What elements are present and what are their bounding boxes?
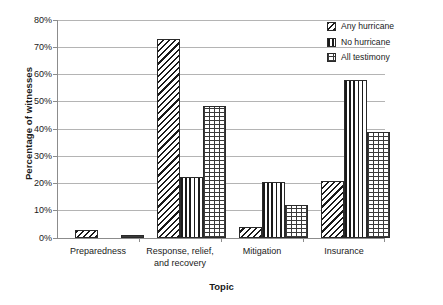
x-label-response-line1: Response, relief, xyxy=(146,246,214,256)
y-tick-label-10: 10% xyxy=(0,206,52,215)
legend-swatch-diagonal-hatch-icon xyxy=(327,22,336,31)
legend-swatch-brick-checker-icon xyxy=(327,53,336,62)
legend-item-all-testimony: All testimony xyxy=(327,50,394,66)
y-tick-mark-0 xyxy=(53,238,57,239)
bar-group-response xyxy=(147,20,221,238)
bar-group-mitigation xyxy=(229,20,303,238)
x-tick-mark-1 xyxy=(139,238,140,242)
y-tick-label-30: 30% xyxy=(0,152,52,161)
y-tick-label-0: 0% xyxy=(0,234,52,243)
x-axis-title: Topic xyxy=(0,281,443,292)
legend-label-all-testimony: All testimony xyxy=(341,50,390,66)
bar-response-any-hurricane xyxy=(157,39,180,238)
x-label-mitigation: Mitigation xyxy=(221,246,303,258)
x-label-preparedness: Preparedness xyxy=(57,246,139,258)
x-tick-mark-2 xyxy=(221,238,222,242)
x-label-response: Response, relief,and recovery xyxy=(139,246,221,269)
y-tick-label-50: 50% xyxy=(0,97,52,106)
bar-group-preparedness xyxy=(65,20,139,238)
y-tick-label-60: 60% xyxy=(0,70,52,79)
x-tick-mark-4 xyxy=(384,238,385,242)
y-tick-label-40: 40% xyxy=(0,125,52,134)
x-label-response-line2: and recovery xyxy=(154,258,206,268)
legend-swatch-vertical-lines-icon xyxy=(327,38,336,47)
x-tick-mark-3 xyxy=(303,238,304,242)
x-label-insurance: Insurance xyxy=(303,246,385,258)
bar-mitigation-all-testimony xyxy=(285,205,308,238)
bar-preparedness-all-testimony xyxy=(121,235,144,238)
legend-item-any-hurricane: Any hurricane xyxy=(327,19,394,35)
legend: Any hurricane No hurricane All testimony xyxy=(327,19,394,66)
y-tick-label-70: 70% xyxy=(0,43,52,52)
legend-item-no-hurricane: No hurricane xyxy=(327,35,394,51)
bar-insurance-no-hurricane xyxy=(344,80,367,238)
bar-mitigation-no-hurricane xyxy=(262,182,285,238)
legend-label-no-hurricane: No hurricane xyxy=(341,35,390,51)
y-tick-label-80: 80% xyxy=(0,16,52,25)
y-tick-label-20: 20% xyxy=(0,179,52,188)
bar-insurance-any-hurricane xyxy=(321,181,344,238)
bar-preparedness-any-hurricane xyxy=(75,230,98,238)
bar-response-no-hurricane xyxy=(180,177,203,238)
bar-insurance-all-testimony xyxy=(367,132,390,238)
bar-response-all-testimony xyxy=(203,106,226,238)
bar-mitigation-any-hurricane xyxy=(239,227,262,238)
bar-chart: Percentage of witnesses 80% 70% 60% 50% … xyxy=(0,0,443,305)
legend-label-any-hurricane: Any hurricane xyxy=(341,19,394,35)
